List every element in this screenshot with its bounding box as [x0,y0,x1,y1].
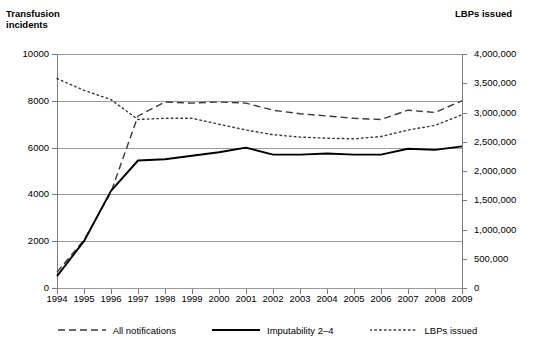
series-line [57,101,462,272]
legend-label: Imputability 2–4 [267,325,334,336]
legend-swatch-dashed [58,325,106,335]
legend-label: All notifications [113,325,176,336]
plot-series [0,0,535,344]
series-line [57,79,462,139]
legend-item[interactable]: LBPs issued [370,325,478,336]
legend-label: LBPs issued [425,325,478,336]
legend-item[interactable]: All notifications [58,325,176,336]
series-line [57,146,462,276]
chart-figure: Transfusion incidents LBPs issued 020004… [0,0,535,344]
legend-swatch-solid [212,325,260,335]
legend-swatch-dotted [370,325,418,335]
chart-legend: All notificationsImputability 2–4LBPs is… [0,318,535,342]
legend-item[interactable]: Imputability 2–4 [212,325,334,336]
